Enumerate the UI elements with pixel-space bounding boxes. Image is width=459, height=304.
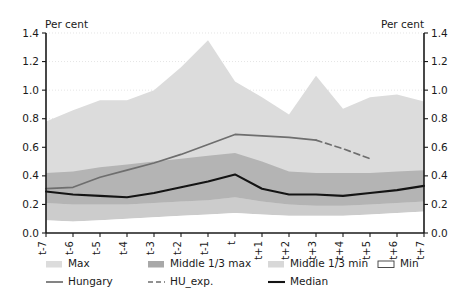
legend-swatch-min (378, 261, 394, 268)
x-tick-label: t-6 (64, 241, 75, 255)
y-tick-label: 0.6 (22, 141, 39, 153)
x-tick-label: t-5 (91, 241, 102, 255)
legend-swatch-middle-1-3-min (268, 261, 284, 268)
y-tick-label: 1.0 (431, 84, 448, 96)
x-axis-ticks: t-7t-6t-5t-4t-3t-2t-1tt+1t+2t+3t+4t+5t+6… (37, 233, 426, 260)
y-tick-label: 0.4 (22, 169, 39, 181)
y-tick-label: 0.4 (431, 169, 448, 181)
y-tick-label: 0.2 (22, 198, 39, 210)
x-tick-label: t (226, 241, 237, 245)
chart-legend: MaxMiddle 1/3 maxMiddle 1/3 minMinHungar… (46, 257, 419, 288)
legend-label: Hungary (68, 275, 113, 287)
legend-label: Median (290, 275, 328, 287)
y-tick-label: 1.2 (22, 55, 39, 67)
area-chart: 0.00.20.40.60.81.01.21.4 0.00.20.40.60.8… (0, 0, 459, 304)
y-tick-label: 0.6 (431, 141, 448, 153)
y-axis-right-ticks: 0.00.20.40.60.81.01.21.4 (424, 27, 448, 239)
y-axis-right-title: Per cent (381, 18, 424, 30)
y-tick-label: 1.2 (431, 55, 448, 67)
y-tick-label: 1.0 (22, 84, 39, 96)
y-axis-left-title: Per cent (45, 18, 88, 30)
y-tick-label: 1.4 (22, 27, 39, 39)
x-tick-label: t-1 (199, 241, 210, 255)
band-areas (46, 40, 424, 233)
chart-container: 0.00.20.40.60.81.01.21.4 0.00.20.40.60.8… (0, 0, 459, 304)
y-tick-label: 0.0 (431, 227, 448, 239)
x-tick-label: t-2 (172, 241, 183, 255)
x-tick-label: t+6 (388, 241, 399, 260)
x-tick-label: t-4 (118, 241, 129, 255)
legend-label: Middle 1/3 min (290, 257, 368, 269)
y-tick-label: 0.0 (22, 227, 39, 239)
legend-swatch-max (46, 261, 62, 268)
y-tick-label: 0.8 (22, 112, 39, 124)
legend-label: Max (68, 257, 90, 269)
y-tick-label: 0.2 (431, 198, 448, 210)
y-tick-label: 0.8 (431, 112, 448, 124)
x-tick-label: t-7 (37, 241, 48, 255)
legend-swatch-middle-1-3-max (148, 261, 164, 268)
x-tick-label: t-3 (145, 241, 156, 255)
y-axis-left-ticks: 0.00.20.40.60.81.01.21.4 (22, 27, 46, 239)
legend-label: HU_exp. (170, 275, 213, 288)
legend-label: Middle 1/3 max (170, 257, 251, 269)
x-tick-label: t+1 (253, 241, 264, 260)
legend-label: Min (400, 257, 419, 269)
y-tick-label: 1.4 (431, 27, 448, 39)
